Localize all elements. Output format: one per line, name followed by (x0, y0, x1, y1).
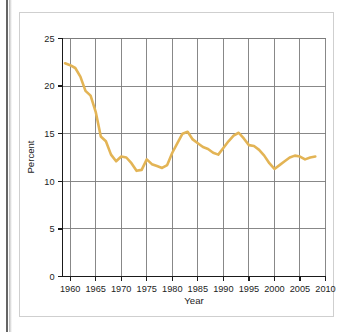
horizontal-gridlines (63, 39, 326, 229)
x-tick-label: 2005 (290, 284, 310, 294)
x-tick-label: 1970 (111, 284, 131, 294)
x-tick-label: 1960 (60, 284, 80, 294)
x-tick-labels: 1960196519701975198019851990199520002005… (60, 284, 336, 294)
y-tick-label: 5 (49, 224, 54, 234)
x-tick-label: 1985 (188, 284, 208, 294)
y-tick-label: 0 (49, 272, 54, 282)
y-axis-title: Percent (25, 140, 36, 173)
chart-canvas: 0510152025 19601965197019751980198519901… (0, 0, 349, 332)
x-tick-label: 1995 (239, 284, 259, 294)
y-tick-label: 15 (44, 129, 54, 139)
x-tick-label: 1965 (85, 284, 105, 294)
y-tick-label: 20 (44, 81, 54, 91)
plot-frame (63, 39, 326, 277)
data-series-line (65, 63, 315, 171)
x-axis-title: Year (184, 295, 204, 306)
y-tick-label: 25 (44, 34, 54, 44)
x-tick-label: 1990 (213, 284, 233, 294)
line-chart-figure: 0510152025 19601965197019751980198519901… (0, 0, 349, 332)
x-tick-label: 2010 (315, 284, 335, 294)
y-tick-label: 10 (44, 177, 54, 187)
x-tick-label: 1975 (137, 284, 157, 294)
x-tick-label: 1980 (162, 284, 182, 294)
data-series-group (65, 63, 315, 171)
x-tick-label: 2000 (264, 284, 284, 294)
y-tick-labels: 0510152025 (44, 34, 54, 282)
